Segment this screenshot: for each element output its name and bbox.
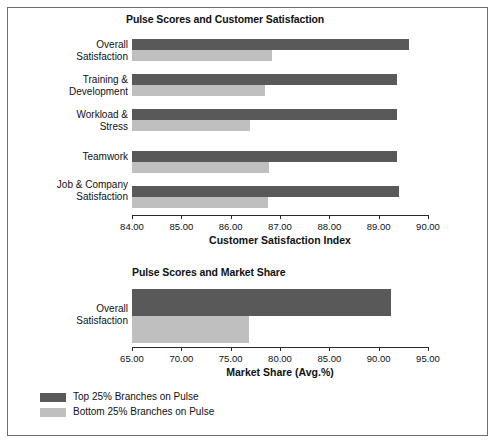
x-tick-label: 65.00	[112, 353, 152, 364]
table-row	[132, 74, 442, 98]
table-row	[132, 151, 442, 175]
cat-label-training-development: Training & Development	[32, 74, 128, 97]
x-tick	[132, 215, 133, 219]
bar-bottom-teamwork	[132, 162, 269, 173]
x-tick-label: 85.00	[161, 221, 201, 232]
table-row	[132, 109, 442, 133]
figure-frame: Pulse Scores and Customer Satisfaction O…	[7, 7, 488, 436]
cat-label-job-company-satisfaction: Job & Company Satisfaction	[22, 179, 128, 202]
x-tick	[280, 347, 281, 351]
bar-bottom-overall-satisfaction	[132, 50, 272, 61]
legend-swatch-top	[40, 393, 66, 402]
legend-swatch-bottom	[40, 408, 66, 417]
cat-label-teamwork: Teamwork	[32, 151, 128, 163]
x-tick-label: 87.00	[260, 221, 300, 232]
x-tick	[428, 215, 429, 219]
chart-panel-market-share: Pulse Scores and Market Share Overall Sa…	[8, 263, 487, 383]
bar-top-workload-stress	[132, 109, 397, 120]
plot-area-1: Overall Satisfaction Training & Developm…	[8, 8, 487, 236]
x-tick-label: 89.00	[359, 221, 399, 232]
cat-label-workload-stress: Workload & Stress	[32, 109, 128, 132]
plot-area-2: Overall Satisfaction 65.0070.0075.0080.0…	[8, 263, 487, 383]
bar-top-training-development	[132, 74, 397, 85]
x-axis-title-2: Market Share (Avg.%)	[132, 366, 428, 378]
table-row	[132, 39, 442, 63]
x-tick-label: 86.00	[211, 221, 251, 232]
x-tick	[181, 347, 182, 351]
x-tick-label: 85.00	[309, 353, 349, 364]
bar-bottom-market-share	[132, 316, 249, 343]
x-tick-label: 88.00	[309, 221, 349, 232]
x-tick	[379, 347, 380, 351]
x-tick	[231, 215, 232, 219]
x-tick-label: 70.00	[161, 353, 201, 364]
table-row	[132, 186, 442, 210]
x-tick	[428, 347, 429, 351]
x-tick	[329, 347, 330, 351]
x-tick-label: 80.00	[260, 353, 300, 364]
legend: Top 25% Branches on Pulse Bottom 25% Bra…	[40, 391, 340, 423]
legend-label-bottom: Bottom 25% Branches on Pulse	[73, 406, 214, 417]
bar-bottom-workload-stress	[132, 120, 250, 131]
x-axis-title-1: Customer Satisfaction Index	[132, 234, 428, 246]
cat-label-overall-satisfaction-2: Overall Satisfaction	[32, 303, 128, 326]
bar-top-teamwork	[132, 151, 397, 162]
table-row	[132, 289, 442, 343]
x-tick	[379, 215, 380, 219]
bar-top-overall-satisfaction	[132, 39, 409, 50]
legend-label-top: Top 25% Branches on Pulse	[73, 391, 199, 402]
x-tick	[231, 347, 232, 351]
x-tick	[132, 347, 133, 351]
cat-label-overall-satisfaction: Overall Satisfaction	[32, 39, 128, 62]
x-tick-label: 84.00	[112, 221, 152, 232]
x-tick	[181, 215, 182, 219]
x-tick	[280, 215, 281, 219]
chart-panel-customer-satisfaction: Pulse Scores and Customer Satisfaction O…	[8, 8, 487, 236]
x-tick	[329, 215, 330, 219]
bar-top-market-share	[132, 289, 391, 316]
bar-bottom-job-company-satisfaction	[132, 197, 268, 208]
x-tick-label: 90.00	[408, 221, 448, 232]
bar-top-job-company-satisfaction	[132, 186, 399, 197]
bar-bottom-training-development	[132, 85, 265, 96]
x-tick-label: 95.00	[408, 353, 448, 364]
x-tick-label: 75.00	[211, 353, 251, 364]
x-tick-label: 90.00	[359, 353, 399, 364]
